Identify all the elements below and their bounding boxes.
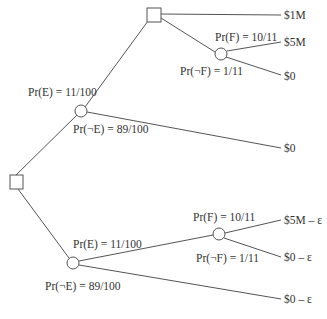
root-decision-node: [10, 175, 23, 189]
edge-root-to-lower-chance: [18, 189, 69, 258]
label-lower-pr-f: Pr(F) = 10/11: [193, 211, 256, 224]
lower-chance-node-f: [213, 228, 225, 240]
label-upper-pr-not-f: Pr(¬F) = 1/11: [180, 65, 243, 78]
edge-upper-f-to-5m: [227, 42, 281, 51]
label-upper-pr-not-e: Pr(¬E) = 89/100: [73, 123, 149, 136]
upper-decision-node: [147, 8, 161, 22]
label-upper-pr-f: Pr(F) = 10/11: [215, 31, 278, 44]
label-lower-pr-not-e: Pr(¬E) = 89/100: [45, 280, 121, 293]
edge-root-to-upper-chance: [16, 115, 77, 175]
upper-chance-node-f: [215, 48, 227, 60]
upper-chance-node-e: [75, 105, 87, 117]
label-lower-pr-not-f: Pr(¬F) = 1/11: [196, 252, 259, 265]
decision-tree-diagram: Pr(E) = 11/100 Pr(¬E) = 89/100 Pr(F) = 1…: [0, 0, 327, 319]
outcome-1m: $1M: [284, 9, 306, 21]
label-lower-pr-e: Pr(E) = 11/100: [73, 238, 142, 251]
lower-chance-node-e: [67, 257, 79, 269]
edge-upper-decision-to-1m: [161, 14, 281, 15]
outcome-5m: $5M: [284, 36, 306, 48]
outcome-0-minus-eps-f: $0 – ε: [284, 251, 312, 263]
outcome-0-upper-f: $0: [284, 70, 296, 82]
outcome-5m-minus-eps: $5M – ε: [284, 214, 322, 226]
label-upper-pr-e: Pr(E) = 11/100: [28, 86, 97, 99]
outcome-0-upper-not-e: $0: [284, 142, 296, 154]
edge-upper-decision-to-upper-f: [161, 18, 215, 52]
outcome-0-minus-eps-not-e: $0 – ε: [284, 293, 312, 305]
